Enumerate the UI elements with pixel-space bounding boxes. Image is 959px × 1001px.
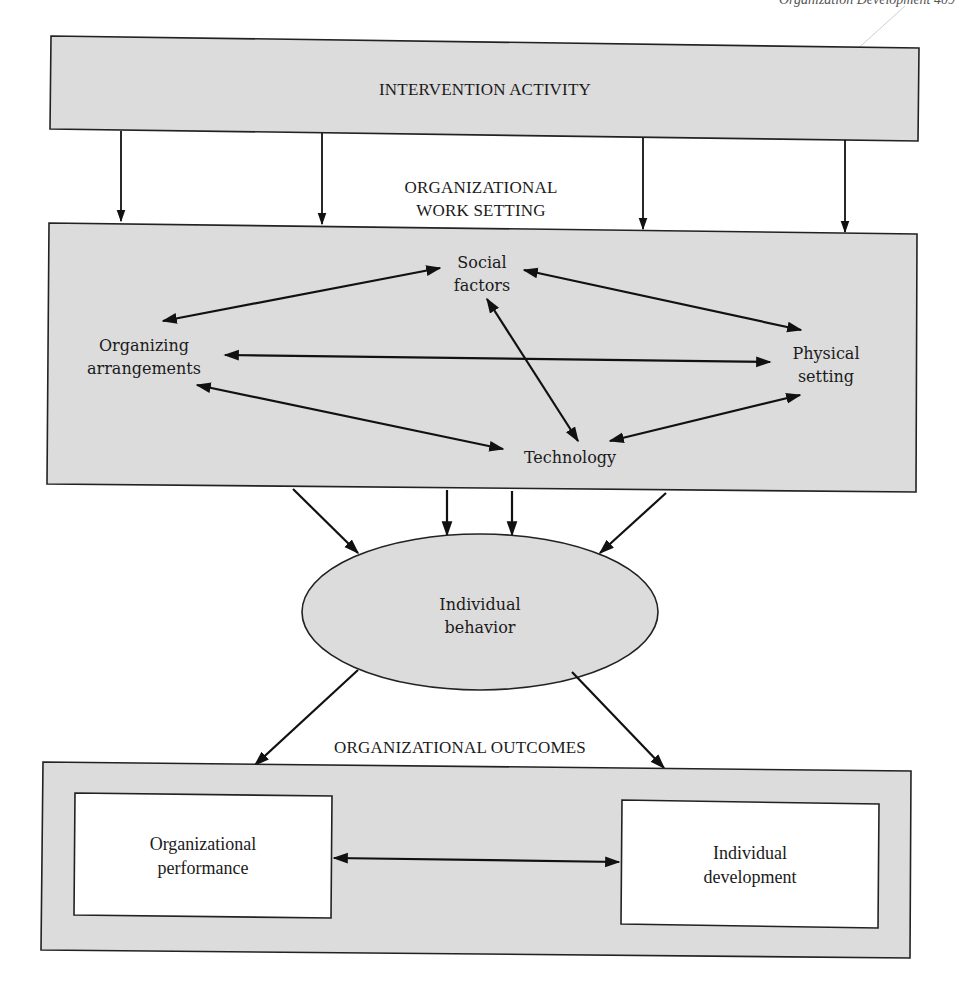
arrow-down-right-icon xyxy=(293,489,358,553)
individual-behavior-node: Individual behavior xyxy=(302,534,658,690)
organizational-performance-label-line1: Organizational xyxy=(150,834,257,854)
intervention-model-diagram: INTERVENTION ACTIVITY ORGANIZATIONAL WOR… xyxy=(0,0,959,1001)
individual-development-label-line2: development xyxy=(704,867,797,887)
organizational-outcomes-title: ORGANIZATIONAL OUTCOMES xyxy=(334,738,586,757)
work-setting-title-line2: WORK SETTING xyxy=(416,201,545,220)
organizational-performance-label-line2: performance xyxy=(158,858,249,878)
work-setting-title-line1: ORGANIZATIONAL xyxy=(405,178,558,197)
intervention-activity-label: INTERVENTION ACTIVITY xyxy=(379,80,591,99)
organizational-outcomes-box: Organizational performance Individual de… xyxy=(41,762,911,958)
work-setting-caption: ORGANIZATIONAL WORK SETTING xyxy=(405,178,558,220)
arrow-down-left-icon xyxy=(600,493,666,553)
individual-development-box: Individual development xyxy=(621,800,879,928)
organizing-arrangements-label-line2: arrangements xyxy=(87,359,201,378)
individual-behavior-label-line1: Individual xyxy=(439,595,520,614)
individual-behavior-label-line2: behavior xyxy=(445,618,516,637)
node-technology: Technology xyxy=(524,448,616,467)
organizational-performance-box: Organizational performance xyxy=(74,793,332,918)
intervention-activity-box: INTERVENTION ACTIVITY xyxy=(50,36,919,141)
social-factors-label-line1: Social xyxy=(457,253,506,272)
organizational-work-setting-box: Social factors Organizing arrangements P… xyxy=(47,223,917,492)
individual-development-label-line1: Individual xyxy=(713,843,787,863)
social-factors-label-line2: factors xyxy=(454,276,510,295)
organizing-arrangements-label-line1: Organizing xyxy=(99,336,189,355)
physical-setting-label-line2: setting xyxy=(798,367,854,386)
physical-setting-label-line1: Physical xyxy=(792,344,859,363)
technology-label: Technology xyxy=(524,448,616,467)
